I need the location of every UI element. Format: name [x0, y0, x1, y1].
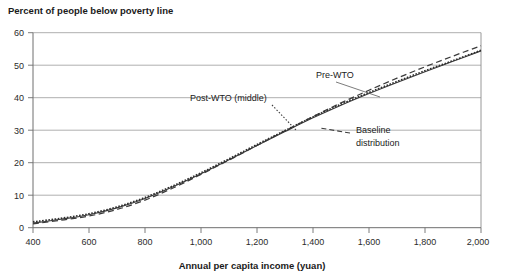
- annotation-post-wto-label: Post-WTO (middle): [190, 93, 267, 103]
- series-pre-wto: [33, 51, 481, 223]
- x-tick-label-1200: 1,200: [246, 237, 269, 247]
- annotation-pre-wto-label: Pre-WTO: [316, 70, 354, 80]
- y-tick-label-40: 40: [14, 93, 24, 103]
- x-tick-marks: [33, 228, 481, 233]
- annotation-baseline: Baseline distribution: [320, 125, 400, 148]
- annotation-baseline-label-line1: Baseline: [356, 125, 391, 135]
- x-tick-label-800: 800: [137, 237, 152, 247]
- poverty-line-chart: Percent of people below poverty line: [0, 0, 505, 279]
- y-tick-label-20: 20: [14, 158, 24, 168]
- x-tick-label-600: 600: [81, 237, 96, 247]
- chart-title: Percent of people below poverty line: [8, 5, 173, 16]
- x-tick-label-1800: 1,800: [414, 237, 437, 247]
- y-tick-label-0: 0: [19, 223, 24, 233]
- y-tick-label-10: 10: [14, 191, 24, 201]
- x-tick-label-400: 400: [25, 237, 40, 247]
- x-tick-label-1400: 1,400: [302, 237, 325, 247]
- y-tick-label-30: 30: [14, 126, 24, 136]
- x-tick-label-1600: 1,600: [358, 237, 381, 247]
- series-baseline-distribution: [33, 46, 481, 224]
- y-tick-marks: [28, 33, 33, 228]
- annotation-baseline-label-line2: distribution: [356, 138, 400, 148]
- x-tick-label-2000: 2,000: [467, 237, 490, 247]
- data-series: [33, 46, 481, 224]
- y-tick-label-50: 50: [14, 61, 24, 71]
- annotation-post-wto-leader: [272, 105, 296, 130]
- x-axis-title: Annual per capita income (yuan): [179, 260, 326, 271]
- chart-figure: Percent of people below poverty line: [0, 0, 505, 279]
- annotation-post-wto: Post-WTO (middle): [190, 93, 296, 130]
- y-tick-label-60: 60: [14, 28, 24, 38]
- y-tick-labels: 60 50 40 30 20 10 0: [14, 28, 24, 233]
- x-tick-labels: 400 600 800 1,000 1,200 1,400 1,600 1,80…: [25, 237, 489, 247]
- gridlines: [33, 33, 481, 196]
- x-tick-label-1000: 1,000: [190, 237, 213, 247]
